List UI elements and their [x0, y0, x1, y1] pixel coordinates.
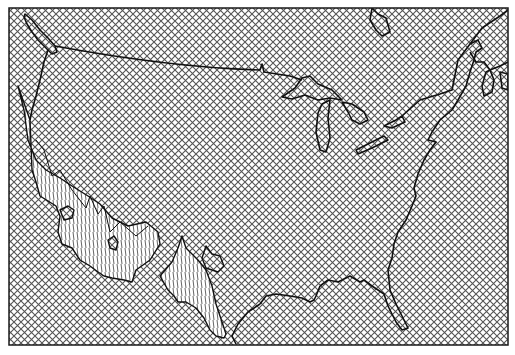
- map-canvas: [0, 0, 515, 355]
- map-svg: [0, 0, 515, 355]
- crosshatch-field: [9, 8, 508, 345]
